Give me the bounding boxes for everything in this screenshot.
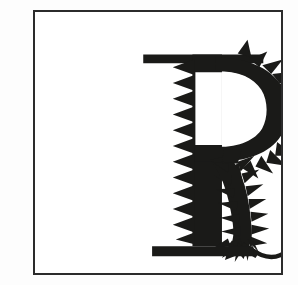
vertical-stem-sawtooth bbox=[173, 59, 195, 244]
bowl-counter-left bbox=[195, 72, 222, 145]
letter-r-glyph bbox=[143, 40, 281, 262]
bottom-serif-bar bbox=[152, 246, 253, 256]
letter-illustration-canvas bbox=[35, 12, 281, 273]
artwork-alt-text: A framed black-and-white illustration of… bbox=[0, 0, 1, 1]
artwork-root: A framed black-and-white illustration of… bbox=[0, 0, 298, 285]
frame-border bbox=[33, 10, 283, 275]
